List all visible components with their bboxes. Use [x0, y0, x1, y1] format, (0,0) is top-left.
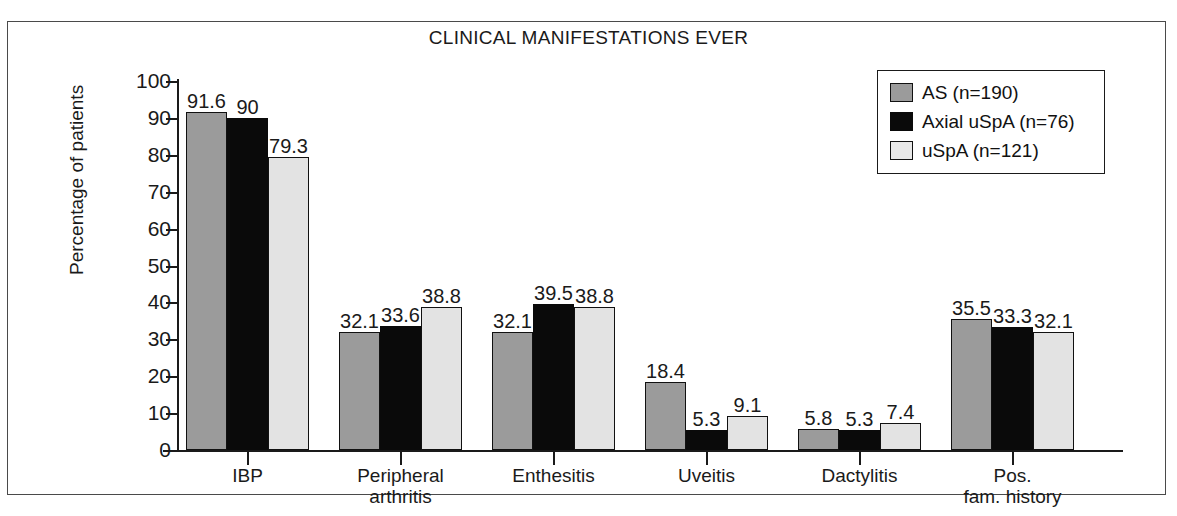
bar-value-label: 5.8 [805, 408, 833, 428]
y-axis-tick-label: 100 [136, 69, 171, 93]
bar: 5.3 [686, 430, 727, 450]
bar: 18.4 [645, 382, 686, 450]
bar: 35.5 [951, 319, 992, 450]
x-axis-tick-mark [1012, 452, 1014, 465]
y-axis-tick-label: 40 [148, 290, 171, 314]
bar-value-label: 91.6 [187, 91, 226, 111]
y-axis-tick-label: 20 [148, 364, 171, 388]
x-axis-category-line: arthritis [357, 487, 444, 508]
x-axis-category-label: Pos.fam. history [963, 466, 1061, 507]
legend-item: uSpA (n=121) [890, 136, 1094, 165]
legend-label: AS (n=190) [922, 82, 1019, 104]
y-axis-tick-label: 60 [148, 217, 171, 241]
bar-value-label: 5.3 [693, 409, 721, 429]
bar-value-label: 79.3 [269, 136, 308, 156]
bar: 32.1 [492, 332, 533, 450]
bar: 90 [227, 118, 268, 450]
bar-value-label: 32.1 [493, 311, 532, 331]
bar: 7.4 [880, 423, 921, 450]
chart-title: CLINICAL MANIFESTATIONS EVER [0, 27, 1177, 49]
x-axis-tick-mark [553, 452, 555, 465]
legend-label: uSpA (n=121) [922, 140, 1039, 162]
x-axis-category-label: Dactylitis [821, 466, 897, 487]
x-axis-category-label: Uveitis [678, 466, 735, 487]
chart-screenshot: CLINICAL MANIFESTATIONS EVER Percentage … [0, 0, 1177, 516]
bar: 91.6 [186, 112, 227, 450]
bar-value-label: 90 [236, 97, 258, 117]
bar-value-label: 38.8 [575, 286, 614, 306]
x-axis-tick-mark [247, 452, 249, 465]
x-axis-category-label: IBP [232, 466, 263, 487]
y-axis-tick-label: 30 [148, 327, 171, 351]
x-axis-category-label: Enthesitis [512, 466, 594, 487]
bar: 32.1 [1033, 332, 1074, 450]
y-axis-tick-label: 50 [148, 254, 171, 278]
bar-value-label: 7.4 [887, 402, 915, 422]
x-axis-category-line: Dactylitis [821, 466, 897, 487]
bar-value-label: 9.1 [734, 395, 762, 415]
legend-swatch [890, 141, 913, 160]
y-axis-tick-label: 80 [148, 143, 171, 167]
bar: 39.5 [533, 304, 574, 450]
x-axis-tick-mark [400, 452, 402, 465]
y-axis-tick-label: 10 [148, 401, 171, 425]
bar: 38.8 [421, 307, 462, 450]
x-axis-category-line: Pos. [963, 466, 1061, 487]
x-axis-line [163, 450, 1123, 452]
bar-value-label: 33.6 [381, 305, 420, 325]
legend-item: AS (n=190) [890, 78, 1094, 107]
x-axis-category-line: Peripheral [357, 466, 444, 487]
bar-value-label: 18.4 [646, 361, 685, 381]
x-axis-category-line: fam. history [963, 487, 1061, 508]
x-axis-tick-mark [859, 452, 861, 465]
bar-value-label: 35.5 [952, 298, 991, 318]
bar: 5.3 [839, 430, 880, 450]
x-axis-category-line: Uveitis [678, 466, 735, 487]
legend-swatch [890, 112, 913, 131]
bar: 38.8 [574, 307, 615, 450]
bar: 79.3 [268, 157, 309, 450]
y-axis-tick-label: 90 [148, 106, 171, 130]
x-axis-category-line: IBP [232, 466, 263, 487]
y-axis-title: Percentage of patients [66, 85, 88, 275]
bar-value-label: 32.1 [1034, 311, 1073, 331]
bar: 33.3 [992, 327, 1033, 450]
bar: 33.6 [380, 326, 421, 450]
bar-value-label: 32.1 [340, 311, 379, 331]
bar-value-label: 5.3 [846, 409, 874, 429]
x-axis-category-line: Enthesitis [512, 466, 594, 487]
y-axis-tick-label: 0 [159, 438, 171, 462]
bar-value-label: 38.8 [422, 286, 461, 306]
x-axis-category-label: Peripheralarthritis [357, 466, 444, 507]
bar-value-label: 39.5 [534, 283, 573, 303]
y-axis-tick-label: 70 [148, 180, 171, 204]
bar-value-label: 33.3 [993, 306, 1032, 326]
legend-item: Axial uSpA (n=76) [890, 107, 1094, 136]
x-axis-tick-mark [706, 452, 708, 465]
legend-label: Axial uSpA (n=76) [922, 111, 1075, 133]
chart-legend: AS (n=190)Axial uSpA (n=76)uSpA (n=121) [877, 70, 1105, 174]
bar: 5.8 [798, 429, 839, 450]
bar: 32.1 [339, 332, 380, 450]
bar: 9.1 [727, 416, 768, 450]
legend-swatch [890, 83, 913, 102]
